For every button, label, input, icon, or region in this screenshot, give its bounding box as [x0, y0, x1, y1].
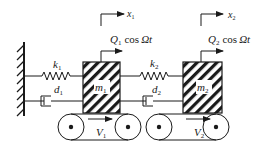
fixed-wall	[17, 42, 24, 116]
force-q1-arrow	[101, 51, 122, 62]
spring-k1-label: k1	[53, 58, 62, 72]
spring-k2-label: k2	[150, 57, 159, 71]
displacement-x2-arrow	[201, 14, 223, 26]
belt-2	[146, 114, 229, 140]
wall-hatching	[17, 45, 24, 116]
displacement-x2-label: x2	[227, 9, 235, 21]
force-q1-label: Q1cosΩt	[110, 33, 153, 47]
displacement-x1-label: x1	[126, 8, 134, 20]
force-q2-label: Q2cosΩt	[208, 33, 251, 47]
belt-1-velocity-label: V1	[96, 126, 107, 140]
diagram-canvas: k1 d1 m1 Q1cosΩt x1 k2 d2 m2 Q2cosΩt	[0, 0, 261, 150]
spring-k2	[120, 72, 183, 80]
damper-d1	[24, 96, 83, 106]
spring-k1	[24, 72, 83, 80]
displacement-x1-arrow	[101, 14, 124, 26]
damper-d2-label: d2	[152, 83, 162, 97]
damper-d2	[120, 96, 183, 106]
damper-d1-label: d1	[54, 83, 64, 97]
force-q2-arrow	[201, 51, 223, 62]
